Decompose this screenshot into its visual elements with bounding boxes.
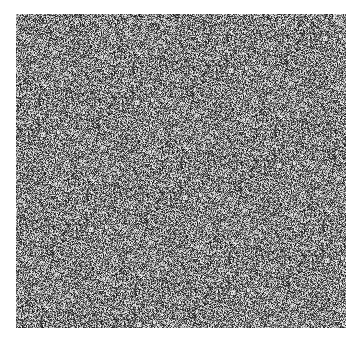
noise-image (16, 14, 346, 328)
